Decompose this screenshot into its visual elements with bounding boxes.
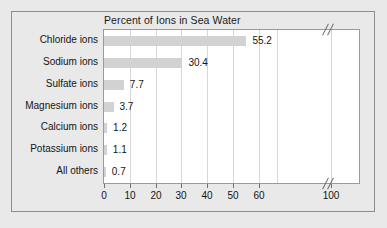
x-tick-label: 10 <box>124 191 135 201</box>
bar <box>104 80 124 90</box>
category-label: Chloride ions <box>40 35 98 45</box>
gridline <box>156 30 157 183</box>
x-tick-label: 30 <box>175 191 186 201</box>
x-tick-label: 0 <box>101 191 107 201</box>
category-axis-labels: Chloride ionsSodium ionsSulfate ionsMagn… <box>0 29 98 184</box>
category-label: Potassium ions <box>30 144 98 154</box>
category-label: All others <box>56 166 98 176</box>
bar-value-label: 1.1 <box>113 145 127 155</box>
x-tick <box>104 184 105 188</box>
x-tick-label: 50 <box>227 191 238 201</box>
bar-value-label: 3.7 <box>120 102 134 112</box>
bar-value-label: 7.7 <box>130 80 144 90</box>
gridline <box>259 30 260 183</box>
x-tick <box>207 184 208 188</box>
bar-value-label: 30.4 <box>188 58 207 68</box>
category-label: Calcium ions <box>41 122 98 132</box>
gridline <box>331 30 332 183</box>
category-label: Magnesium ions <box>25 101 98 111</box>
axis-break-top-icon <box>322 24 336 36</box>
bar-value-label: 55.2 <box>252 36 271 46</box>
bar <box>104 123 107 133</box>
category-label: Sulfate ions <box>46 79 98 89</box>
axis-break-bottom-icon <box>322 178 336 190</box>
category-label: Sodium ions <box>43 57 98 67</box>
x-tick-label: 40 <box>201 191 212 201</box>
chart-title: Percent of Ions in Sea Water <box>104 14 241 26</box>
x-tick <box>259 184 260 188</box>
bar <box>104 167 106 177</box>
bar <box>104 102 114 112</box>
chart-figure: Percent of Ions in Sea Water Chloride io… <box>0 0 387 228</box>
plot-area: 55.230.47.73.71.21.10.7 <box>103 29 360 184</box>
bar <box>104 145 107 155</box>
bar-value-label: 1.2 <box>113 123 127 133</box>
gridline <box>207 30 208 183</box>
gridline <box>181 30 182 183</box>
x-tick <box>156 184 157 188</box>
gridline <box>233 30 234 183</box>
bar-value-label: 0.7 <box>112 167 126 177</box>
x-tick-label: 100 <box>323 191 340 201</box>
gridline <box>277 30 278 183</box>
bar <box>104 58 182 68</box>
x-tick-label: 20 <box>150 191 161 201</box>
x-tick <box>130 184 131 188</box>
x-tick <box>233 184 234 188</box>
x-tick <box>181 184 182 188</box>
bar <box>104 36 246 46</box>
x-tick-label: 60 <box>253 191 264 201</box>
